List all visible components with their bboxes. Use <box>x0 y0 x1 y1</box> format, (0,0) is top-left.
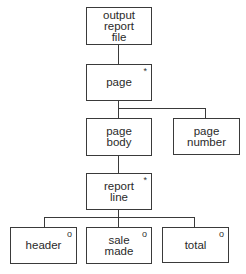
node-label: page <box>106 77 132 88</box>
node-page: page * <box>86 64 152 101</box>
selection-marker: o <box>142 230 147 239</box>
edge-to-total <box>194 217 195 227</box>
iteration-marker: * <box>143 176 147 185</box>
edge-to-page-number <box>205 108 206 118</box>
edge-report-line-branch-bar <box>44 217 195 218</box>
edge-to-header <box>44 217 45 227</box>
edge-page-branch-bar <box>118 108 206 109</box>
node-header: header o <box>10 227 77 264</box>
edge-report-line-stem <box>118 209 119 227</box>
node-page-number: page number <box>173 118 240 155</box>
node-label: header <box>26 240 62 251</box>
node-total: total o <box>162 227 229 263</box>
node-report-line: report line * <box>86 173 152 210</box>
edge-body-to-report-line <box>118 155 119 173</box>
node-output-report-file: output report file <box>86 7 152 45</box>
edge-file-to-page <box>118 44 119 64</box>
node-label: sale made <box>105 235 134 257</box>
iteration-marker: * <box>143 67 147 76</box>
node-label: report line <box>104 181 134 203</box>
node-label: output report file <box>103 10 135 43</box>
node-label: page body <box>106 126 132 148</box>
node-label: page number <box>187 126 226 148</box>
selection-marker: o <box>67 230 72 239</box>
edge-page-stem <box>118 100 119 118</box>
node-sale-made: sale made o <box>86 227 152 264</box>
node-page-body: page body <box>86 118 152 156</box>
node-label: total <box>185 240 207 251</box>
selection-marker: o <box>219 230 224 239</box>
